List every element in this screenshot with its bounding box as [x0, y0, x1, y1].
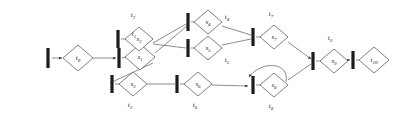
- transition-bar-b7[interactable]: [251, 28, 254, 46]
- transition-bar-b0[interactable]: [46, 48, 49, 68]
- arc-p2-to-b4: [153, 24, 186, 43]
- arc-p7-to-b9: [288, 42, 311, 59]
- petri-net-diagram: t0s1s2s3s4s5s6s7s8s9t10 t1t2t3t4t5t6t7t8…: [0, 0, 399, 119]
- arc-p2-to-b5: [153, 44, 186, 48]
- transition-label-t4: t4: [225, 13, 230, 22]
- place-p5[interactable]: s5: [194, 36, 222, 60]
- transition-bar-b1[interactable]: [117, 48, 120, 68]
- arc-p1-to-b2: [155, 26, 187, 53]
- arc-p4-to-b7: [222, 26, 251, 35]
- transition-bar-b2[interactable]: [116, 30, 119, 48]
- place-p3[interactable]: s3: [119, 72, 147, 96]
- place-p9[interactable]: s9: [320, 49, 348, 73]
- transition-bar-b5[interactable]: [186, 39, 189, 57]
- transition-label-t6: t6: [193, 101, 198, 110]
- place-p10[interactable]: t10: [359, 47, 389, 73]
- arc-p6-to-b8: [212, 85, 248, 86]
- transition-bar-b4[interactable]: [186, 13, 189, 31]
- place-p0[interactable]: t0: [63, 45, 93, 71]
- transition-bar-b9[interactable]: [311, 52, 314, 70]
- place-p4[interactable]: s4: [194, 10, 222, 34]
- place-p6[interactable]: s6: [184, 72, 212, 96]
- transition-label-t2: t2: [131, 11, 136, 20]
- transition-bar-b3[interactable]: [110, 75, 113, 93]
- transition-label-t3: t3: [128, 101, 133, 110]
- place-p7[interactable]: s7: [260, 25, 288, 49]
- petri-net-canvas: t0s1s2s3s4s5s6s7s8s9t10 t1t2t3t4t5t6t7t8…: [0, 0, 399, 119]
- transition-label-layer: t1t2t3t4t5t6t7t8t9: [128, 10, 333, 111]
- transition-bar-b6[interactable]: [175, 75, 178, 93]
- transition-label-t5: t5: [225, 56, 230, 65]
- place-p8[interactable]: s8: [260, 73, 288, 97]
- transition-label-t9: t9: [328, 34, 333, 43]
- arc-p8-to-b9: [288, 64, 311, 80]
- place-p2[interactable]: s2: [125, 27, 153, 51]
- transition-bar-b10[interactable]: [351, 51, 354, 69]
- transition-label-t7: t7: [269, 10, 274, 19]
- transition-bar-b8[interactable]: [251, 76, 254, 94]
- arc-p5-to-b7: [222, 39, 251, 45]
- transition-label-t8: t8: [269, 102, 274, 111]
